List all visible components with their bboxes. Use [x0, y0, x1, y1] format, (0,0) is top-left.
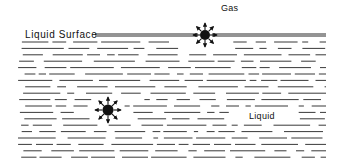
- liquid-surface-label: Liquid Surface: [25, 30, 97, 40]
- bubble-icon: [103, 105, 114, 116]
- bubble-icon: [200, 30, 210, 40]
- bulk-bubble: [95, 97, 121, 123]
- bubbles: [95, 23, 217, 123]
- liquid-hatching: [18, 42, 326, 157]
- liquid-label: Liquid: [249, 111, 275, 121]
- gas-label: Gas: [221, 3, 238, 13]
- surface-bubble: [193, 23, 217, 47]
- bubble-diagram: [0, 0, 340, 166]
